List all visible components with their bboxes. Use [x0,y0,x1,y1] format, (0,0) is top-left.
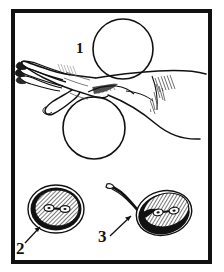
figure-root: 1 2 3 [0,0,224,272]
callout-label-1: 1 [76,41,84,56]
callout-label-2: 2 [16,240,25,257]
inset3-duct-tip [106,184,114,189]
page-background [0,0,224,272]
figure-illustration [0,0,224,272]
callout-label-3: 3 [98,228,107,245]
